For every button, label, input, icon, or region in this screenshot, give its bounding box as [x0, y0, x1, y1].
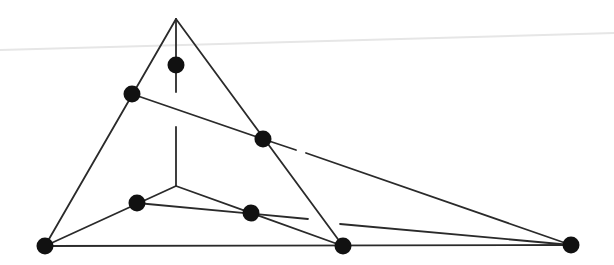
node-right-edge — [255, 131, 272, 148]
node-top-inner — [168, 57, 185, 74]
edge-inner-left-to-gap — [137, 203, 308, 219]
node-bottom-left — [37, 238, 54, 255]
node-inner-left — [129, 195, 146, 212]
scan-artifact-line — [0, 33, 614, 50]
edges-group — [45, 19, 571, 246]
node-bottom-right — [563, 237, 580, 254]
edge-inner-center-to-bottom-middle — [176, 186, 343, 246]
node-inner-middle — [243, 205, 260, 222]
edge-bottom-base — [45, 245, 571, 246]
edge-right-edge-to-bottom-right-b — [306, 153, 571, 245]
node-left-edge — [124, 86, 141, 103]
edge-left-edge-to-right-edge — [132, 94, 263, 139]
node-bottom-middle — [335, 238, 352, 255]
edge-gap-to-bottom-right — [340, 224, 571, 245]
edge-apex-to-bottom-left — [45, 19, 176, 246]
edge-inner-center-to-bottom-left — [45, 186, 176, 246]
nodes-group — [37, 57, 580, 255]
diagram-canvas — [0, 0, 614, 265]
